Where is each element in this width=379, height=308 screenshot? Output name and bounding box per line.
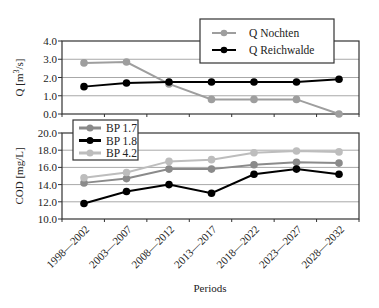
data-point: [80, 83, 88, 91]
data-point: [123, 58, 131, 66]
y-axis-label: Q [m3/s]: [12, 59, 25, 97]
data-point: [80, 174, 88, 182]
data-point: [123, 169, 131, 177]
y-tick-label: 1.0: [43, 90, 57, 102]
data-point: [123, 79, 131, 87]
data-point: [293, 96, 301, 104]
legend-label: BP 4.2: [106, 147, 137, 159]
y-axis-label: COD [mg/L]: [13, 147, 25, 204]
x-tick-label: 1998—2002: [44, 223, 91, 270]
legend-label: BP 1.8: [106, 135, 137, 147]
y-tick-label: 16.0: [38, 161, 58, 173]
data-point: [293, 147, 301, 155]
x-tick-label: 2028—2032: [299, 223, 346, 270]
legend: BP 1.7BP 1.8BP 4.2: [73, 120, 138, 160]
data-point: [335, 76, 343, 84]
y-tick-label: 18.0: [38, 144, 58, 156]
data-point: [165, 158, 173, 166]
y-tick-label: 10.0: [38, 213, 58, 225]
data-point: [208, 189, 216, 197]
y-tick-label: 2.0: [43, 72, 57, 84]
data-point: [80, 200, 88, 208]
data-point: [208, 156, 216, 164]
legend-label: Q Reichwalde: [249, 44, 314, 56]
y-tick-label: 12.0: [38, 196, 58, 208]
data-point: [208, 78, 216, 86]
data-point: [335, 148, 343, 156]
data-point: [250, 78, 258, 86]
data-point: [250, 96, 258, 104]
legend: Q NochtenQ Reichwalde: [200, 19, 334, 63]
y-tick-label: 14.0: [38, 179, 58, 191]
series-q-nochten: [80, 58, 343, 118]
y-tick-label: 20.0: [38, 127, 58, 139]
data-point: [293, 165, 301, 173]
data-point: [293, 78, 301, 86]
data-point: [335, 170, 343, 178]
cod-plot: 10.012.014.016.018.020.0BP 1.7BP 1.8BP 4…: [13, 120, 359, 225]
legend-label: Q Nochten: [249, 27, 299, 39]
data-point: [165, 181, 173, 189]
data-point: [335, 159, 343, 167]
flow-plot: 0.01.02.03.04.0Q NochtenQ ReichwaldeQ [m…: [12, 19, 359, 120]
x-tick-label: 2008—2012: [129, 223, 176, 270]
x-tick-label: 2018—2022: [214, 223, 261, 270]
data-point: [293, 158, 301, 166]
x-axis-label: Periods: [194, 282, 227, 294]
data-point: [250, 149, 258, 157]
y-tick-label: 0.0: [43, 108, 57, 120]
data-point: [123, 188, 131, 196]
data-point: [208, 165, 216, 173]
data-point: [250, 170, 258, 178]
data-point: [165, 78, 173, 86]
x-axis-tick-labels: 1998—20022003—20072008—20122013—20172018…: [44, 223, 346, 271]
y-tick-label: 4.0: [43, 35, 57, 47]
data-point: [165, 165, 173, 173]
y-tick-label: 3.0: [43, 53, 57, 65]
chart-figure: 0.01.02.03.04.0Q NochtenQ ReichwaldeQ [m…: [0, 0, 379, 308]
data-point: [335, 110, 343, 118]
legend-label: BP 1.7: [106, 122, 137, 134]
data-point: [250, 161, 258, 169]
data-point: [208, 96, 216, 104]
x-tick-label: 2023—2027: [257, 223, 305, 271]
x-tick-label: 2013—2017: [172, 223, 220, 271]
data-point: [80, 59, 88, 67]
x-tick-label: 2003—2007: [87, 223, 135, 271]
